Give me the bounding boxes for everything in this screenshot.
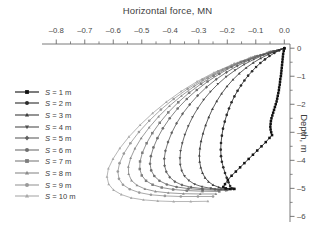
data-point-marker [25, 148, 29, 152]
y-axis-tick-label: –1 [297, 72, 306, 81]
legend-item-6[interactable]: S = 6 m [14, 144, 98, 156]
legend-item-9[interactable]: S = 9 m [14, 179, 98, 191]
legend-label: S = 6 m [45, 145, 71, 154]
legend-swatch [14, 99, 40, 107]
legend-label: S = 9 m [45, 180, 71, 189]
legend-label: S = 10 m [45, 192, 76, 201]
legend-swatch [14, 157, 40, 165]
legend-swatch [14, 192, 40, 200]
data-point-marker [25, 136, 29, 141]
legend-swatch [14, 88, 40, 96]
legend-label: S = 2 m [45, 99, 71, 108]
legend-label: S = 4 m [45, 122, 71, 131]
y-axis-tick-label: –5 [297, 184, 306, 193]
legend-item-1[interactable]: S = 1 m [14, 86, 98, 98]
data-point-marker [25, 90, 29, 94]
data-point-marker [25, 183, 29, 187]
chart-legend: S = 1 mS = 2 mS = 3 mS = 4 mS = 5 mS = 6… [14, 86, 98, 202]
y-axis-label: Depth, m [299, 104, 310, 164]
data-point-marker [25, 159, 29, 163]
chart-figure: Horizontal force, MN –0.8–0.7–0.6–0.5–0.… [0, 0, 335, 236]
legend-swatch [14, 169, 40, 177]
legend-swatch [14, 123, 40, 131]
y-axis-tick-label: –6 [297, 212, 306, 221]
legend-item-5[interactable]: S = 5 m [14, 132, 98, 144]
data-point-marker [25, 101, 29, 105]
legend-swatch [14, 181, 40, 189]
legend-label: S = 3 m [45, 110, 71, 119]
legend-item-10[interactable]: S = 10 m [14, 190, 98, 202]
legend-item-4[interactable]: S = 4 m [14, 121, 98, 133]
legend-item-8[interactable]: S = 8 m [14, 167, 98, 179]
legend-swatch [14, 134, 40, 142]
legend-label: S = 1 m [45, 87, 71, 96]
legend-swatch [14, 146, 40, 154]
legend-label: S = 7 m [45, 157, 71, 166]
legend-label: S = 5 m [45, 134, 71, 143]
legend-item-7[interactable]: S = 7 m [14, 156, 98, 168]
legend-item-2[interactable]: S = 2 m [14, 98, 98, 110]
legend-label: S = 8 m [45, 168, 71, 177]
legend-swatch [14, 111, 40, 119]
y-axis-tick-label: 0 [297, 44, 301, 53]
legend-item-3[interactable]: S = 3 m [14, 109, 98, 121]
